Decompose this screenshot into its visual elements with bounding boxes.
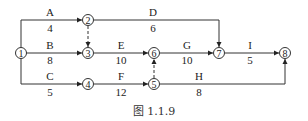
node-5: 5 <box>149 79 160 90</box>
activity-G-duration: 10 <box>182 54 194 66</box>
activity-E-name: E <box>118 39 125 51</box>
activity-F-duration: 12 <box>116 86 127 98</box>
svg-text:8: 8 <box>283 48 288 59</box>
diagram-canvas: 1 2 3 4 5 6 7 8 A 4 B 8 C 5 D 6 E 10 F 1… <box>0 0 308 121</box>
activity-F-name: F <box>118 70 124 82</box>
activity-I-duration: 5 <box>247 54 253 66</box>
arrow-H <box>160 59 285 84</box>
node-7: 7 <box>214 48 225 59</box>
network-diagram: 1 2 3 4 5 6 7 8 A 4 B 8 C 5 D 6 E 10 F 1… <box>0 0 308 121</box>
node-2: 2 <box>83 15 94 26</box>
activity-B-duration: 8 <box>47 54 53 66</box>
node-8: 8 <box>280 48 291 59</box>
node-4: 4 <box>83 79 94 90</box>
activity-I-name: I <box>248 39 252 51</box>
node-3: 3 <box>83 48 94 59</box>
activity-C-name: C <box>46 70 53 82</box>
svg-text:5: 5 <box>152 79 157 90</box>
activity-D-name: D <box>149 6 157 18</box>
activity-B-name: B <box>46 39 53 51</box>
svg-text:3: 3 <box>86 48 91 59</box>
activity-A-duration: 4 <box>47 22 53 34</box>
activity-A-name: A <box>46 6 54 18</box>
activity-H-duration: 8 <box>196 86 202 98</box>
node-6: 6 <box>149 48 160 59</box>
svg-text:4: 4 <box>86 79 91 90</box>
svg-text:6: 6 <box>152 48 157 59</box>
svg-text:1: 1 <box>19 48 24 59</box>
node-1: 1 <box>16 48 27 59</box>
activity-C-duration: 5 <box>47 86 53 98</box>
activity-G-name: G <box>183 39 191 51</box>
activity-H-name: H <box>195 70 203 82</box>
figure-caption: 图 1.1.9 <box>133 105 176 118</box>
activity-E-duration: 10 <box>116 54 128 66</box>
activity-D-duration: 6 <box>150 22 156 34</box>
svg-text:2: 2 <box>86 15 91 26</box>
svg-text:7: 7 <box>217 48 222 59</box>
arrow-D <box>94 20 219 47</box>
